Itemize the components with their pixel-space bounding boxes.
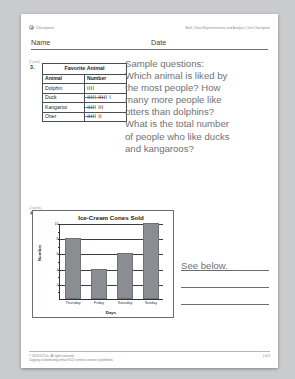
overlay-line: What is the total number [125,118,275,130]
favorite-animal-table: Favorite Animal Animal Number Dolphin II… [42,63,127,122]
cell-tally: ̶I̶I̶I̶I̶I III [85,103,127,113]
chart-y-tick-mark [58,224,60,225]
question-3-number: 3. [30,64,34,70]
chart-bar [117,253,133,299]
chart-x-tick-label: Saturday [118,301,132,305]
chart-title: Ice-Cream Cones Sold [55,214,167,221]
chart-y-tick-mark [58,277,60,278]
worksheet-page: Checkpoint Math | Data Representations a… [21,14,278,368]
cell-animal: Duck [43,93,85,103]
cell-tally: ̶I̶I̶I̶I̶I II [85,112,127,122]
chart-y-tick-label: 8 [57,237,59,241]
table-title-row: Favorite Animal [43,64,127,75]
chart-x-tick-label: Thursday [66,301,81,305]
overlay-line: many more people like [125,94,275,106]
chart-x-tick-label: Friday [94,301,104,305]
table-row: Otter ̶I̶I̶I̶I̶I II [43,112,127,122]
name-date-row: Name Date [31,38,268,54]
chart-y-axis-label: Number [37,245,42,261]
table-header-row: Animal Number [43,74,127,84]
chart-y-tick-label: 10 [55,222,59,226]
overlay-line: Sample questions: [125,58,275,70]
breadcrumb: Math | Data Representations and Analysis… [185,26,270,30]
chart-bar [143,223,159,299]
chart-y-tick-mark [58,254,60,255]
name-label: Name [31,38,50,47]
answer-line [181,287,269,288]
table-title: Favorite Animal [43,64,127,75]
page-header: Checkpoint Math | Data Representations a… [29,23,270,32]
table-row: Dolphin IIII [43,84,127,94]
cell-tally: ̶I̶I̶I̶I̶I ̶I̶I̶I̶I̶I I [85,93,127,103]
chart-y-tick-mark [58,285,60,286]
footer-divider [29,351,270,352]
column-header-number: Number [85,74,127,84]
chart-y-tick-label: 6 [57,252,59,256]
chart-y-tick-mark [58,262,60,263]
checkpoint-icon [29,25,34,30]
chart-y-tick-label: 2 [57,283,59,287]
logo-label: Checkpoint [36,26,54,30]
chart-y-tick-mark [58,247,60,248]
chart-bar [91,269,107,299]
table-row: Kangaroo ̶I̶I̶I̶I̶I III [43,103,127,113]
overlay-line: Which animal is liked by [125,70,275,82]
distribution-notice: Copying or distributing without K12's wr… [29,358,113,362]
overlay-line: the most people? How [125,82,275,94]
chart-y-tick-mark [58,270,60,271]
overlay-line: of people who like ducks [125,131,275,143]
cell-animal: Dolphin [43,84,85,94]
chart-y-tick-mark [58,239,60,240]
chart-x-axis-label: Days [59,310,163,315]
answer-line [181,304,269,305]
date-label: Date [151,38,166,47]
name-date-rule [31,49,268,50]
brand-logo: Checkpoint [29,25,54,30]
overlay-line: and kangaroos? [125,143,275,155]
overlay-line: otters than dolphins? [125,106,275,118]
chart-x-tick-label: Sunday [145,301,157,305]
chart-plot-area: 246810ThursdayFridaySaturdaySunday [59,224,163,300]
chart-bar [65,238,81,299]
chart-y-tick-mark [58,292,60,293]
table-row: Duck ̶I̶I̶I̶I̶I ̶I̶I̶I̶I̶I I [43,93,127,103]
column-header-animal: Animal [43,74,85,84]
answer-line [181,270,269,271]
cell-animal: Otter [43,112,85,122]
cell-animal: Kangaroo [43,103,85,113]
chart-y-tick-mark [58,232,60,233]
bar-chart: Ice-Cream Cones Sold Number 246810Thursd… [32,210,174,318]
cell-tally: IIII [85,84,127,94]
sample-questions-overlay: Sample questions: Which animal is liked … [125,58,275,155]
page-footer: © 2013 K12 Inc. All rights reserved. Cop… [29,354,270,363]
page-number: 2 of 3 [263,354,270,358]
chart-y-tick-label: 4 [57,268,59,272]
